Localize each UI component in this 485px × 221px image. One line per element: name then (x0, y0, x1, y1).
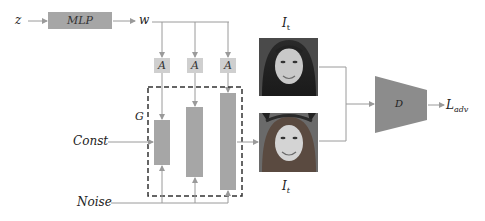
adain-label-1: A (158, 59, 166, 72)
generator-layer-1 (154, 120, 170, 165)
architecture-diagram (0, 0, 485, 221)
real-image-label: It (282, 17, 290, 32)
discriminator-label: D (395, 99, 403, 109)
mlp-label: MLP (67, 14, 93, 27)
generated-face-image (259, 113, 318, 172)
mlp-block: MLP (48, 12, 112, 29)
generator-layer-3 (220, 93, 236, 190)
real-face-image (259, 38, 318, 96)
images-to-discriminator-connector (319, 67, 346, 141)
w-label: w (139, 14, 149, 26)
adain-label-2: A (191, 59, 199, 72)
noise-label: Noise (77, 196, 112, 208)
generator-layer-2 (186, 107, 203, 177)
z-label: z (15, 14, 21, 26)
const-label: Const (73, 135, 108, 147)
adain-label-3: A (224, 59, 232, 72)
adain-block-1: A (154, 58, 170, 73)
generated-image-label: It (282, 180, 290, 195)
adain-block-2: A (187, 58, 203, 73)
generator-label: G (135, 111, 144, 122)
adain-block-3: A (220, 58, 236, 73)
adversarial-loss-label: Ladv (446, 99, 468, 114)
